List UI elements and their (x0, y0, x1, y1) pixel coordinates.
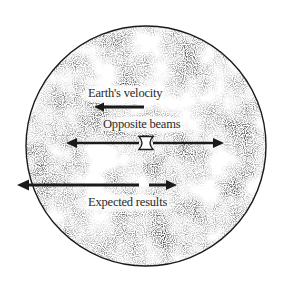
earth-diagram (0, 0, 282, 287)
earth-velocity-label: Earth's velocity (86, 86, 164, 100)
opposite-beams-label: Opposite beams (101, 117, 182, 131)
expected-results-label: Expected results (86, 195, 169, 209)
